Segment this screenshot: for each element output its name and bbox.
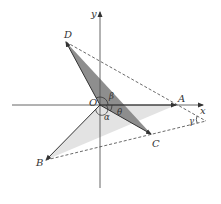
- y-axis-label: y: [90, 8, 97, 19]
- point-A-label: A: [177, 93, 185, 104]
- angle-alpha-label: α: [104, 112, 110, 122]
- diagram-svg: y x O D A C B β θ α γ: [0, 0, 221, 204]
- angle-theta-label: θ: [117, 107, 122, 117]
- point-B-label: B: [35, 157, 43, 168]
- origin-label: O: [89, 97, 97, 108]
- angle-gamma-label: γ: [189, 116, 195, 126]
- point-C-label: C: [152, 138, 160, 149]
- shaded-triangle-AOB: [46, 105, 176, 160]
- point-D-label: D: [63, 29, 72, 40]
- angle-arc-gamma: [196, 116, 197, 123]
- x-axis-label: x: [200, 105, 206, 116]
- angle-beta-label: β: [108, 91, 114, 101]
- vector-diagram: y x O D A C B β θ α γ: [0, 0, 221, 204]
